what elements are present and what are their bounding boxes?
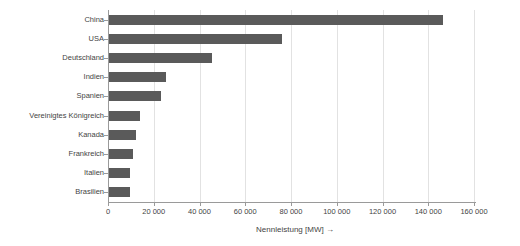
y-axis-tick (104, 116, 108, 117)
bar (108, 187, 130, 197)
y-axis-tick (104, 77, 108, 78)
x-axis-tick-label: 0 (106, 208, 110, 216)
bar-row (108, 53, 474, 63)
x-axis-tick-label: 100 000 (323, 208, 350, 216)
bar (108, 34, 282, 44)
bar-row (108, 187, 474, 197)
bar (108, 15, 443, 25)
bar (108, 111, 140, 121)
x-axis-title: Nennleistung [MW] → (0, 226, 520, 234)
x-axis-line (108, 202, 476, 203)
x-axis-tick-label: 140 000 (415, 208, 442, 216)
bar-row (108, 111, 474, 121)
bar-row (108, 168, 474, 178)
x-axis-tick (154, 202, 155, 206)
y-axis-tick-label: Indien (0, 73, 104, 81)
bar (108, 130, 136, 140)
y-axis-tick-label: Frankreich (0, 150, 104, 158)
plot-area (108, 10, 474, 202)
y-axis-tick-label: Brasilien (0, 188, 104, 196)
bar-row (108, 91, 474, 101)
x-axis-title-text: Nennleistung [MW] → (256, 225, 334, 234)
y-axis-tick (104, 192, 108, 193)
bar-row (108, 149, 474, 159)
y-axis-tick (104, 135, 108, 136)
bar (108, 168, 130, 178)
bar (108, 72, 166, 82)
bar-chart: ChinaUSADeutschlandIndienSpanienVereinig… (0, 0, 520, 246)
y-axis-tick-label: Italien (0, 169, 104, 177)
x-axis-tick (474, 202, 475, 206)
y-axis-tick (104, 39, 108, 40)
x-axis-tick (108, 202, 109, 206)
y-axis-tick (104, 58, 108, 59)
x-axis-tick (428, 202, 429, 206)
y-axis-tick-label: Deutschland (0, 54, 104, 62)
bar-row (108, 34, 474, 44)
x-axis-tick-label: 20 000 (142, 208, 165, 216)
y-axis-tick-label: USA (0, 35, 104, 43)
bar-row (108, 15, 474, 25)
y-axis-tick-label: China (0, 16, 104, 24)
x-axis-tick-label: 120 000 (369, 208, 396, 216)
x-axis-tick-label: 40 000 (188, 208, 211, 216)
y-axis-tick-label: Spanien (0, 92, 104, 100)
y-axis-tick (104, 154, 108, 155)
x-axis-tick (383, 202, 384, 206)
x-axis-tick-label: 60 000 (234, 208, 257, 216)
bar (108, 53, 212, 63)
y-axis-tick-label: Kanada (0, 131, 104, 139)
x-axis-tick (245, 202, 246, 206)
y-axis-line (108, 10, 109, 202)
x-axis-tick (291, 202, 292, 206)
bar-row (108, 72, 474, 82)
x-axis-tick (200, 202, 201, 206)
bar-row (108, 130, 474, 140)
y-axis-tick-labels: ChinaUSADeutschlandIndienSpanienVereinig… (0, 10, 104, 202)
y-axis-tick (104, 96, 108, 97)
gridline (474, 10, 475, 202)
y-axis-tick-label: Vereinigtes Königreich (0, 112, 104, 120)
x-axis-tick-label: 160 000 (460, 208, 487, 216)
y-axis-tick (104, 173, 108, 174)
y-axis-tick (104, 20, 108, 21)
x-axis-tick-label: 80 000 (280, 208, 303, 216)
x-axis-tick (337, 202, 338, 206)
bar (108, 149, 133, 159)
bar (108, 91, 161, 101)
